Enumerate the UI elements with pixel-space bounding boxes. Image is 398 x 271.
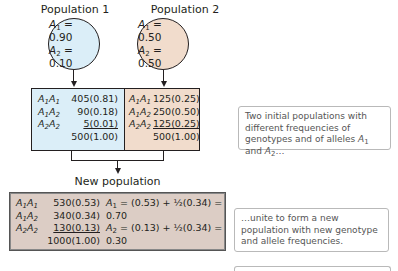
note-new-population: …unite to form a new population with new… [234, 208, 389, 252]
population-1-title: Population 1 [20, 3, 130, 16]
allele-equations: A1 = (0.53) + ½(0.34) = 0.70 A2 = (0.13)… [106, 197, 225, 247]
new-genotype-table: A1A1 530(0.53) A1A2 340(0.34) A2A2 130(0… [16, 197, 100, 247]
arrow-down-icon [71, 81, 77, 87]
genotype-row: A1A1 125(0.25) [129, 93, 199, 106]
genotype-row: A2A2 5(0.01) [38, 118, 126, 131]
arrow-down-icon [115, 168, 121, 174]
new-population-title: New population [60, 175, 175, 188]
genotype-row: A2A2 130(0.13) [16, 222, 100, 235]
population-2-allele-circle: A1 = 0.50 A2 = 0.50 [137, 18, 189, 70]
total-row: 500(1.00) [38, 131, 126, 144]
allele-freq: A2 = 0.10 [49, 44, 99, 70]
population-1-genotype-box: A1A1 405(0.81) A1A2 90(0.18) A2A2 5(0.01… [31, 88, 127, 151]
population-1-allele-circle: A1 = 0.90 A2 = 0.10 [48, 18, 100, 70]
total-row: 1000(1.00) [16, 235, 100, 248]
genotype-row: A1A2 340(0.34) [16, 210, 100, 223]
population-2-genotype-box: A1A1 125(0.25) A1A2 250(0.50) A2A2 125(0… [124, 88, 200, 151]
equation-a2: A2 = (0.13) + ½(0.34) = 0.30 [106, 222, 225, 247]
genotype-row: A1A1 530(0.53) [16, 197, 100, 210]
allele-freq: A1 = 0.50 [138, 18, 188, 44]
allele-freq: A2 = 0.50 [138, 44, 188, 70]
equation-a1: A1 = (0.53) + ½(0.34) = 0.70 [106, 197, 225, 222]
note-next-partial [234, 266, 391, 271]
genotype-row: A1A2 250(0.50) [129, 106, 199, 119]
new-population-box: A1A1 530(0.53) A1A2 340(0.34) A2A2 130(0… [9, 192, 226, 251]
population-2-title: Population 2 [130, 3, 240, 16]
genotype-row: A1A2 90(0.18) [38, 106, 126, 119]
note-initial-populations: Two initial populations with different f… [238, 106, 391, 150]
total-row: 500(1.00) [129, 131, 199, 144]
genotype-row: A1A1 405(0.81) [38, 93, 126, 106]
arrow-down-icon [161, 81, 167, 87]
allele-freq: A1 = 0.90 [49, 18, 99, 44]
genotype-row: A2A2 125(0.25) [129, 118, 199, 131]
